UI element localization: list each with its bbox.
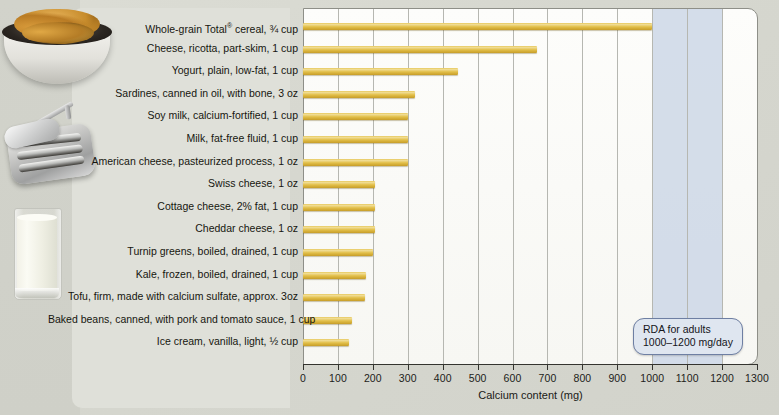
gridline-1200 xyxy=(722,9,723,364)
category-label: Baked beans, canned, with pork and tomat… xyxy=(48,314,298,325)
tick-200 xyxy=(373,364,374,370)
tick-100 xyxy=(338,364,339,370)
x-axis-title: Calcium content (mg) xyxy=(303,389,758,401)
category-label: Ice cream, vanilla, light, ½ cup xyxy=(48,336,298,347)
rda-callout-line1: RDA for adults xyxy=(643,323,733,336)
gridline-500 xyxy=(478,9,479,364)
tick-1100 xyxy=(687,364,688,370)
category-label: Soy milk, calcium-fortified, 1 cup xyxy=(48,110,298,121)
tick-1300 xyxy=(757,364,758,370)
gridline-1000 xyxy=(652,9,653,364)
bar xyxy=(303,46,537,53)
category-label: Yogurt, plain, low-fat, 1 cup xyxy=(48,65,298,76)
gridline-300 xyxy=(408,9,409,364)
calcium-content-figure: Whole-grain Total® cereal, ¾ cupCheese, … xyxy=(0,0,779,415)
bar xyxy=(303,159,408,166)
bar xyxy=(303,136,408,143)
category-label: American cheese, pasteurized process, 1 … xyxy=(48,156,298,167)
tick-label-1300: 1300 xyxy=(737,372,777,384)
category-label: Swiss cheese, 1 oz xyxy=(48,178,298,189)
gridline-600 xyxy=(513,9,514,364)
category-label: Turnip greens, boiled, drained, 1 cup xyxy=(48,246,298,257)
bar xyxy=(303,339,349,346)
bar xyxy=(303,272,366,279)
bar xyxy=(303,204,375,211)
milk-surface xyxy=(17,214,57,221)
bar xyxy=(303,23,652,30)
bar xyxy=(303,294,365,301)
category-label: Tofu, firm, made with calcium sulfate, a… xyxy=(48,291,298,302)
gridline-800 xyxy=(582,9,583,364)
category-label: Milk, fat-free fluid, 1 cup xyxy=(48,133,298,144)
tick-0 xyxy=(303,364,304,370)
gridline-700 xyxy=(547,9,548,364)
gridline-400 xyxy=(443,9,444,364)
gridline-900 xyxy=(617,9,618,364)
tick-800 xyxy=(582,364,583,370)
category-label: Cottage cheese, 2% fat, 1 cup xyxy=(48,201,298,212)
tick-700 xyxy=(547,364,548,370)
gridline-1100 xyxy=(687,9,688,364)
bar xyxy=(303,249,373,256)
rda-callout: RDA for adults 1000–1200 mg/day xyxy=(633,318,743,355)
tick-1200 xyxy=(722,364,723,370)
tick-300 xyxy=(408,364,409,370)
tick-600 xyxy=(513,364,514,370)
tick-500 xyxy=(478,364,479,370)
x-axis-line xyxy=(303,364,758,365)
tick-1000 xyxy=(652,364,653,370)
bar xyxy=(303,226,375,233)
tick-900 xyxy=(617,364,618,370)
bar xyxy=(303,91,415,98)
rda-callout-line2: 1000–1200 mg/day xyxy=(643,336,733,349)
bar xyxy=(303,113,408,120)
bar xyxy=(303,181,375,188)
tick-400 xyxy=(443,364,444,370)
category-label: Whole-grain Total® cereal, ¾ cup xyxy=(48,20,298,35)
category-label: Sardines, canned in oil, with bone, 3 oz xyxy=(48,88,298,99)
category-label: Cheddar cheese, 1 oz xyxy=(48,223,298,234)
category-label: Kale, frozen, boiled, drained, 1 cup xyxy=(48,269,298,280)
category-label: Cheese, ricotta, part-skim, 1 cup xyxy=(48,43,298,54)
bar xyxy=(303,68,458,75)
